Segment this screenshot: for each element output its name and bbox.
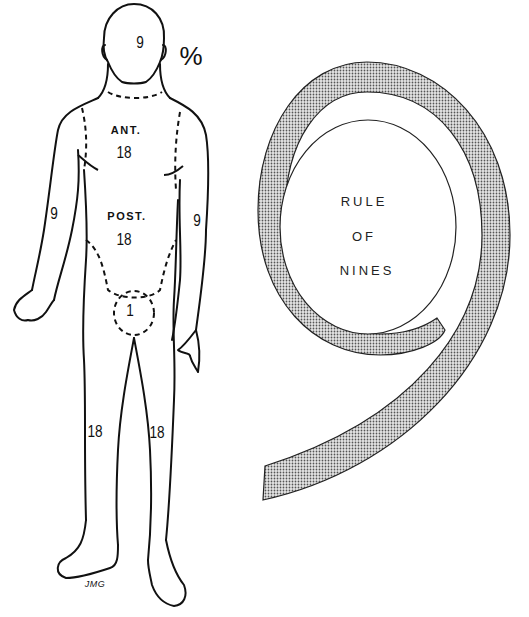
title-line-3: NINES: [340, 263, 395, 278]
left-leg-percentage: 18: [149, 423, 164, 443]
posterior-label: POST.: [107, 210, 146, 222]
anterior-trunk-percentage: 18: [116, 143, 131, 163]
head-percentage: 9: [136, 33, 144, 53]
title-line-2: OF: [352, 229, 376, 244]
title-line-1: RULE: [341, 194, 388, 209]
numeral-nine-graphic: [258, 62, 510, 500]
left-arm-percentage: 9: [193, 211, 201, 231]
right-leg-percentage: 18: [87, 422, 102, 442]
right-arm-percentage: 9: [50, 204, 58, 224]
rule-of-nines-diagram: [0, 0, 529, 617]
percent-symbol: %: [179, 41, 202, 72]
perineum-percentage: 1: [126, 301, 134, 321]
artist-signature: JMG: [85, 579, 106, 589]
posterior-trunk-percentage: 18: [116, 230, 131, 250]
anterior-label: ANT.: [111, 124, 141, 136]
